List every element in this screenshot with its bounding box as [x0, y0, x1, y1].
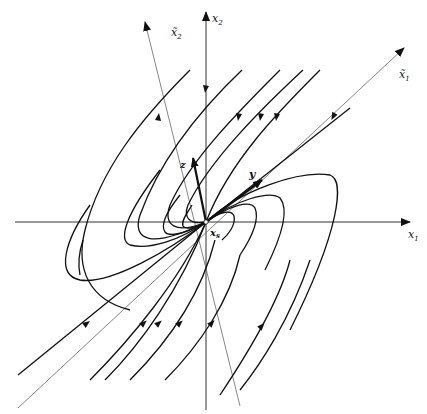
equilibrium-label: xs	[209, 227, 220, 240]
trajectory-18	[130, 240, 215, 380]
equilibrium-point	[204, 220, 208, 224]
flow-arrows	[81, 85, 337, 331]
trajectory-20	[220, 260, 290, 395]
eigen-y-label: y	[248, 168, 257, 181]
trajectory-11	[125, 170, 206, 246]
eigen-z-label: z	[179, 159, 186, 170]
flow-arrow-icon	[236, 113, 242, 121]
x2-label: x2	[212, 12, 223, 27]
flow-arrow-icon	[155, 113, 161, 121]
x1-label: x1	[408, 228, 419, 243]
labels: x1 x2 x̃2 x̃1 y z xs	[171, 12, 419, 243]
x2-tilde-label: x̃2	[171, 26, 182, 41]
trajectories	[18, 70, 350, 395]
trajectory-3	[168, 70, 280, 228]
flow-arrow-icon	[258, 113, 264, 121]
x1-tilde-label: x̃1	[399, 68, 410, 83]
trajectory-21	[240, 260, 310, 390]
axes	[15, 12, 410, 410]
trajectory-15	[18, 222, 206, 375]
trajectory-1	[82, 70, 190, 310]
trajectory-4	[186, 70, 303, 223]
phase-portrait: x1 x2 x̃2 x̃1 y z xs	[0, 0, 427, 414]
eigenvector-z	[193, 158, 206, 222]
